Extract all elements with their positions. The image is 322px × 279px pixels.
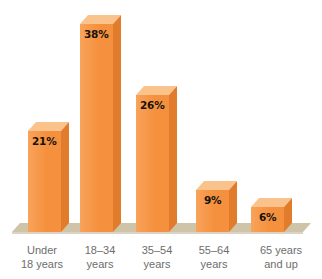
bar-value-label: 26% <box>140 99 165 111</box>
category-label-line: years <box>176 258 252 272</box>
bar-side-face <box>61 122 69 232</box>
bars-group <box>28 15 292 232</box>
bar-front-face <box>136 95 169 232</box>
bar-side-face <box>113 15 121 232</box>
ground-front-edge <box>12 232 303 234</box>
bar-front-face <box>80 24 113 232</box>
bar-value-label: 6% <box>259 211 276 223</box>
bar-chart: 21% 38% 26% 9% 6% Under 18 years 18–34 y… <box>0 0 322 279</box>
category-label: 65 years and up <box>243 244 319 271</box>
bar-value-label: 21% <box>32 135 57 147</box>
category-label-line: 65 years <box>243 244 319 258</box>
bar-column <box>196 181 237 232</box>
bar-value-label: 38% <box>84 28 109 40</box>
bar-value-label: 9% <box>204 194 221 206</box>
bar-column <box>80 15 121 232</box>
category-label-line: and up <box>243 258 319 272</box>
category-label: 55–64 years <box>176 244 252 271</box>
bar-side-face <box>169 86 177 232</box>
category-label-line: 55–64 <box>176 244 252 258</box>
